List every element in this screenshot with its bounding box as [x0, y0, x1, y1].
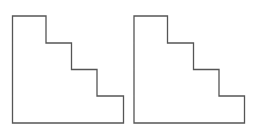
- staircase-diagram: [0, 0, 259, 138]
- staircase-shape-right: [134, 16, 245, 123]
- staircase-shape-left: [13, 16, 124, 123]
